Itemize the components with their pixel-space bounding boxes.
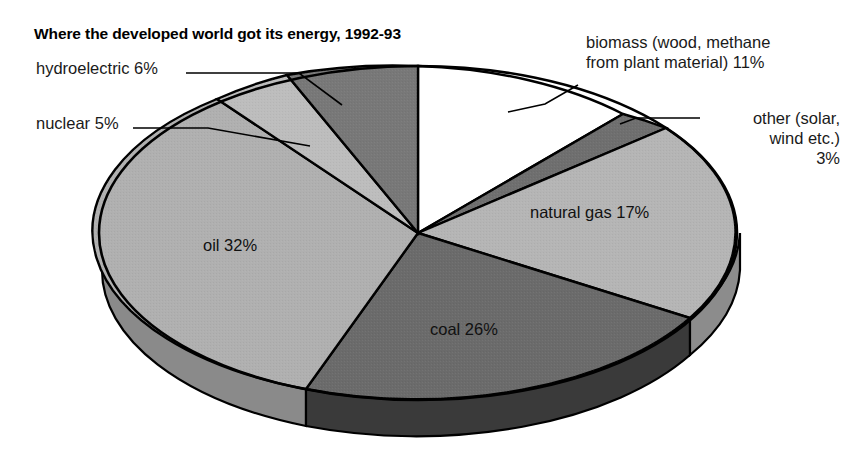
label-hydroelectric: hydroelectric 6%: [36, 58, 158, 78]
label-coal: coal 26%: [430, 320, 498, 339]
label-natural-gas: natural gas 17%: [530, 203, 649, 222]
label-biomass: biomass (wood, methane from plant materi…: [586, 32, 770, 72]
chart-page: Where the developed world got its energy…: [0, 0, 852, 458]
label-oil: oil 32%: [203, 236, 257, 255]
label-other: other (solar, wind etc.) 3%: [700, 108, 840, 168]
label-nuclear: nuclear 5%: [36, 113, 119, 133]
